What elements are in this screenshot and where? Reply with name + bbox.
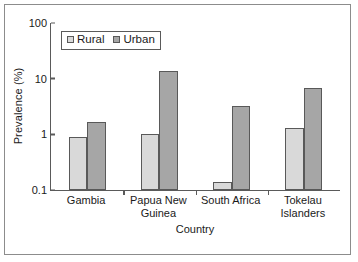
x-axis-label-tokelau-islanders: TokelauIslanders: [267, 194, 339, 219]
y-axis-tick: 0.1: [32, 185, 51, 196]
y-axis-tick-label: 0.1: [32, 185, 51, 196]
x-axis-category-labels: GambiaPapua NewGuineaSouth AfricaTokelau…: [50, 194, 340, 226]
plot-area: RuralUrban 1001010.1: [50, 23, 340, 191]
y-axis-tick: 10: [35, 73, 51, 84]
x-axis-title: Country: [50, 223, 340, 235]
y-axis-tick-mark: [51, 189, 55, 190]
legend-item-rural: Rural: [67, 34, 104, 46]
y-axis-tick-mark: [51, 78, 55, 79]
bar-rural-papua-new-guinea: [141, 134, 159, 190]
y-axis-tick-label: 1: [41, 129, 51, 140]
bar-urban-tokelau-islanders: [304, 88, 322, 190]
figure-frame: Prevalence (%) RuralUrban 1001010.1 Gamb…: [4, 4, 351, 255]
legend-swatch-urban-icon: [113, 36, 120, 43]
bar-urban-papua-new-guinea: [159, 71, 177, 190]
legend-label-rural: Rural: [77, 34, 104, 46]
y-axis-tick: 1: [41, 129, 51, 140]
y-axis-tick-label: 100: [29, 18, 51, 29]
bar-urban-gambia: [87, 122, 105, 190]
x-axis-label-south-africa: South Africa: [195, 194, 267, 207]
x-axis-label-papua-new-guinea: Papua NewGuinea: [122, 194, 194, 219]
bar-urban-south-africa: [232, 106, 250, 190]
y-axis-title: Prevalence (%): [12, 46, 24, 166]
chart-legend: RuralUrban: [61, 31, 161, 50]
y-axis-tick-label: 10: [35, 73, 51, 84]
legend-item-urban: Urban: [113, 34, 154, 46]
y-axis-tick-mark: [51, 134, 55, 135]
bar-rural-gambia: [69, 137, 87, 190]
legend-swatch-rural-icon: [67, 36, 74, 43]
y-axis-tick-mark: [51, 22, 55, 23]
bar-rural-south-africa: [213, 182, 231, 190]
legend-label-urban: Urban: [123, 34, 154, 46]
x-axis-label-gambia: Gambia: [50, 194, 122, 207]
bar-rural-tokelau-islanders: [285, 128, 303, 190]
y-axis-tick: 100: [29, 18, 51, 29]
